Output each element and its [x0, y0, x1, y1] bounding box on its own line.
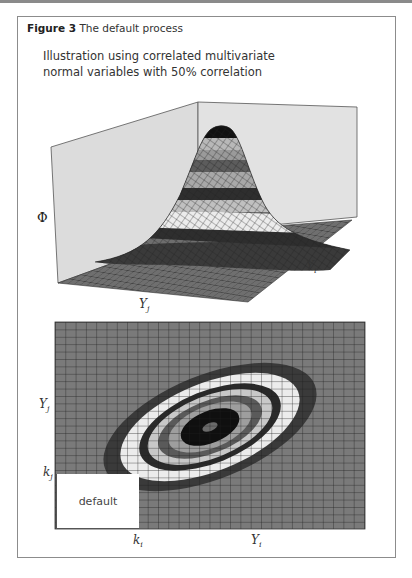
axis-label-y-i-contour: Yi — [251, 533, 261, 549]
axis-label-y-j-contour: Yj — [39, 397, 49, 413]
default-region: default — [56, 474, 139, 529]
axis-label-k-i: ki — [133, 533, 143, 549]
axis-label-k-j: kj — [43, 465, 53, 481]
